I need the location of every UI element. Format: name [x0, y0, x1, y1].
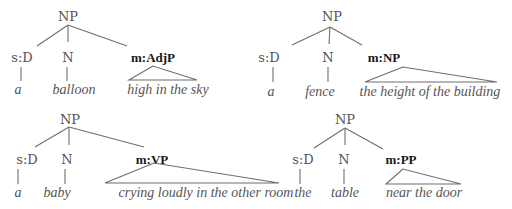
tree-4: NP s:D N m:PP the table near the door [292, 112, 462, 200]
tree-2-modifier-label: m:NP [368, 50, 401, 65]
tree-2-edge-determiner [292, 27, 330, 45]
tree-4-modifier-label: m:PP [385, 152, 416, 167]
tree-2-edge-modifier [330, 27, 362, 45]
tree-2-determiner-word: a [268, 84, 275, 99]
tree-4-head-label: N [338, 152, 349, 167]
tree-2: NP s:D N m:NP a fence the height of the … [258, 9, 500, 99]
tree-2-determiner-label: s:D [258, 50, 279, 65]
tree-1-determiner-label: s:D [11, 50, 32, 65]
tree-4-modifier-words: near the door [386, 185, 463, 200]
tree-3-head-label: N [61, 152, 72, 167]
tree-1-determiner-word: a [15, 82, 22, 97]
tree-3-modifier-words: crying loudly in the other room [119, 185, 294, 200]
tree-2-root-label: NP [322, 9, 342, 24]
tree-2-triangle-icon [365, 67, 497, 82]
tree-1-modifier-words: high in the sky [127, 82, 209, 97]
tree-4-edge-modifier [345, 128, 383, 149]
tree-3-determiner-word: a [15, 185, 22, 200]
tree-2-modifier-words: the height of the building [360, 84, 501, 99]
tree-3: NP s:D N m:VP a baby crying loudly in th… [15, 112, 294, 200]
tree-4-root-label: NP [335, 112, 355, 127]
tree-1-triangle-icon [129, 66, 197, 80]
tree-4-triangle-icon [386, 169, 461, 184]
tree-2-head-label: N [322, 50, 333, 65]
tree-1-head-label: N [62, 50, 73, 65]
tree-1-root-label: NP [58, 9, 78, 24]
tree-3-determiner-label: s:D [16, 152, 37, 167]
tree-1-modifier-label: m:AdjP [131, 50, 175, 65]
tree-3-triangle-icon [105, 163, 279, 183]
tree-1: NP s:D N m:AdjP a balloon high in the sk… [11, 9, 209, 97]
tree-4-head-word: table [331, 185, 359, 200]
tree-3-edge-determiner [35, 127, 69, 147]
tree-4-edge-determiner [314, 128, 345, 148]
tree-3-edge-modifier [69, 127, 144, 147]
tree-1-head-word: balloon [53, 82, 96, 97]
tree-1-edge-determiner [37, 25, 68, 46]
tree-1-edge-modifier [68, 25, 127, 46]
tree-4-determiner-word: the [294, 185, 311, 200]
syntax-trees-diagram: NP s:D N m:AdjP a balloon high in the sk… [0, 0, 512, 209]
tree-2-head-word: fence [305, 84, 335, 99]
tree-3-head-word: baby [43, 185, 71, 200]
tree-4-determiner-label: s:D [292, 152, 313, 167]
tree-3-root-label: NP [60, 112, 80, 127]
tree-2-edge-head [329, 27, 330, 44]
